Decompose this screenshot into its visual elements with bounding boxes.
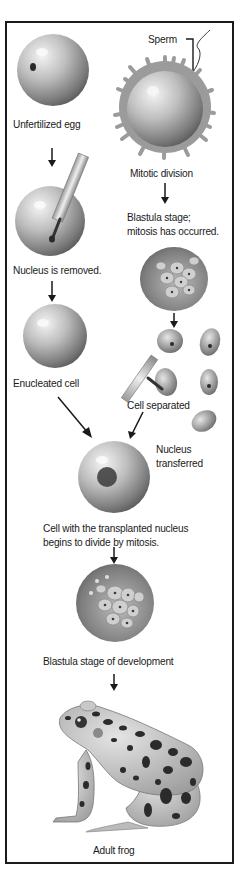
arrow-diagonal-icon	[127, 410, 147, 440]
blastula-mitosis-label-line1: Blastula stage;	[127, 210, 191, 224]
transplanted-label-line1: Cell with the transplanted nucleus	[43, 521, 188, 535]
enucleated-cell-label: Enucleated cell	[13, 376, 79, 390]
nucleus-transferred-label-line1: Nucleus	[156, 442, 191, 456]
adult-frog-label: Adult frog	[93, 843, 135, 857]
nucleus-transferred-label-line2: transferred	[156, 456, 203, 470]
sperm-label: Sperm	[148, 32, 177, 46]
nucleus-transferred-figure	[77, 440, 151, 514]
arrow-down-icon	[47, 281, 57, 303]
arrow-diagonal-icon	[55, 395, 95, 440]
adult-frog-figure	[48, 700, 213, 840]
unfertilized-egg-label: Unfertilized egg	[13, 117, 81, 131]
arrow-down-icon	[160, 183, 170, 205]
transplanted-label-line2: begins to divide by mitosis.	[43, 535, 159, 549]
unfertilized-egg-figure	[16, 32, 90, 108]
blastula-development-figure	[75, 563, 155, 643]
mitotic-division-label: Mitotic division	[130, 166, 193, 180]
blastula-mitosis-label-line2: mitosis has occurred.	[127, 224, 219, 238]
enucleated-cell-figure	[22, 303, 88, 369]
nucleus-removed-label: Nucleus is removed.	[13, 263, 101, 277]
fertilized-egg-figure	[114, 55, 216, 159]
nucleus-removal-figure	[14, 155, 94, 259]
blastula-figure	[139, 246, 209, 312]
arrow-down-icon	[109, 674, 119, 692]
blastula-development-label: Blastula stage of development	[43, 654, 173, 668]
